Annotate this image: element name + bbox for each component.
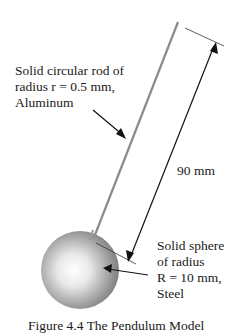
figure-caption: Figure 4.4 The Pendulum Model xyxy=(28,318,204,334)
dim-line xyxy=(130,46,214,258)
rod-label: Solid circular rod of radius r = 0.5 mm,… xyxy=(15,63,124,111)
length-label: 90 mm xyxy=(177,163,215,179)
rod xyxy=(93,22,178,240)
rod-leader-arrow-icon xyxy=(116,128,126,139)
dim-extension-top xyxy=(185,28,224,46)
sphere-label: Solid sphere of radius R = 10 mm, Steel xyxy=(157,238,224,302)
